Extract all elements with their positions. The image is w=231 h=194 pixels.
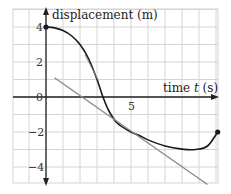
endpoint-marker <box>215 129 220 134</box>
x-tick-5: 5 <box>128 100 135 113</box>
y-tick-2: 2 <box>36 56 43 69</box>
grid <box>13 9 218 183</box>
y-tick-0: 0 <box>36 91 43 104</box>
x-axis-label: time t (s) <box>163 81 218 95</box>
grid-border <box>13 9 218 183</box>
y-tick-4: 4 <box>36 21 43 34</box>
displacement-time-chart: displacement (m) time t (s) 5 4 2 0 −2 −… <box>0 0 231 194</box>
endpoint-marker <box>43 24 48 29</box>
y-tick-minus-2: −2 <box>28 126 44 139</box>
x-axis-label-prefix: time <box>163 81 194 95</box>
axes <box>13 7 219 186</box>
y-tick-minus-4: −4 <box>28 161 44 174</box>
x-axis-label-suffix: (s) <box>199 81 218 95</box>
y-axis-up-arrow-icon <box>43 7 49 15</box>
y-axis-label: displacement (m) <box>52 8 158 22</box>
y-axis-down-arrow-icon <box>43 178 49 186</box>
